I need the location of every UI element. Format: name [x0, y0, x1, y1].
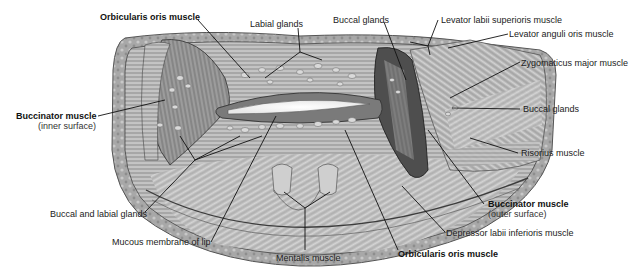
label-levator-anguli-oris: Levator anguli oris muscle [509, 29, 614, 39]
label-buccinator-inner: Buccinator muscle (inner surface) [16, 111, 96, 131]
label-buccal-glands-right: Buccal glands [523, 104, 579, 114]
label-mentalis: Mentalis muscle [276, 253, 341, 263]
buccinator-inner-title: Buccinator muscle [16, 111, 97, 121]
label-buccal-and-labial-glands: Buccal and labial glands [50, 209, 147, 219]
label-mucous-membrane-of-lip: Mucous membrane of lip [112, 237, 211, 247]
buccinator-inner-subtitle: (inner surface) [16, 121, 96, 131]
label-levator-labii-superioris: Levator labii superioris muscle [441, 15, 562, 25]
label-orbicularis-oris-bottom: Orbicularis oris muscle [398, 249, 498, 259]
buccinator-outer-subtitle: (outer surface) [488, 209, 569, 219]
label-buccinator-outer: Buccinator muscle (outer surface) [488, 199, 569, 219]
label-zygomaticus-major: Zygomaticus major muscle [521, 58, 628, 68]
label-buccal-glands-top: Buccal glands [333, 15, 389, 25]
buccinator-outer-title: Buccinator muscle [488, 199, 569, 209]
label-depressor-labii-inferioris: Depressor labii inferioris muscle [446, 228, 574, 238]
label-orbicularis-oris-top: Orbicularis oris muscle [100, 12, 200, 22]
label-labial-glands: Labial glands [250, 19, 303, 29]
label-risorius: Risorius muscle [521, 148, 585, 158]
anatomy-figure: Orbicularis oris muscle Labial glands Bu… [0, 0, 638, 272]
